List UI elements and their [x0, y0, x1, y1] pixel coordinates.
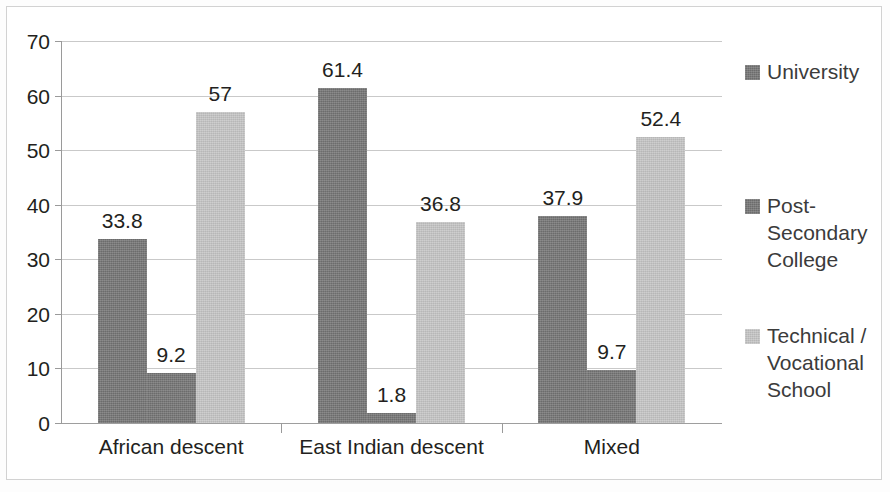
y-axis-tick-label: 50 — [6, 140, 50, 161]
y-axis-tick — [55, 368, 62, 369]
bar-texture — [98, 239, 147, 423]
bar-texture — [196, 112, 245, 423]
legend-swatch-icon — [745, 329, 760, 344]
y-axis-tick-label: 0 — [6, 413, 50, 434]
bar-texture — [147, 373, 196, 423]
gridline — [61, 314, 722, 315]
y-axis-tick-label: 20 — [6, 303, 50, 324]
legend-swatch-icon — [745, 65, 760, 80]
bar-value-label: 52.4 — [640, 108, 681, 129]
bar-texture — [318, 88, 367, 423]
gridline — [61, 205, 722, 206]
gridline — [61, 41, 722, 42]
gridline — [61, 423, 722, 424]
legend-label: Technical /VocationalSchool — [767, 323, 866, 404]
bar-texture — [538, 216, 587, 423]
legend-swatch-texture — [745, 199, 760, 214]
y-axis-tick-label: 30 — [6, 249, 50, 270]
bar-value-label: 9.7 — [597, 341, 626, 362]
gridline — [61, 150, 722, 151]
bar[interactable] — [416, 222, 465, 423]
bar-texture — [587, 370, 636, 423]
bar[interactable] — [147, 373, 196, 423]
x-axis-category-label: African descent — [99, 436, 244, 457]
y-axis-tick — [55, 205, 62, 206]
bar-value-label: 61.4 — [322, 59, 363, 80]
legend-label: Post-SecondaryCollege — [767, 193, 867, 274]
y-axis-tick — [55, 96, 62, 97]
bar-value-label: 57 — [208, 83, 231, 104]
y-axis-tick — [55, 150, 62, 151]
y-axis-tick — [55, 314, 62, 315]
gridline — [61, 259, 722, 260]
bar[interactable] — [98, 239, 147, 423]
bar-value-label: 36.8 — [420, 193, 461, 214]
bar-texture — [416, 222, 465, 423]
legend-item[interactable]: University — [745, 59, 859, 86]
legend-item[interactable]: Technical /VocationalSchool — [745, 323, 866, 404]
bar[interactable] — [196, 112, 245, 423]
legend-label: University — [767, 59, 859, 86]
bar[interactable] — [587, 370, 636, 423]
y-axis-tick — [55, 259, 62, 260]
bar[interactable] — [367, 413, 416, 423]
bar-chart: 010203040506070 UniversityPost-Secondary… — [0, 0, 890, 492]
bar-value-label: 1.8 — [377, 384, 406, 405]
y-axis-tick-label: 70 — [6, 31, 50, 52]
legend-swatch-texture — [745, 329, 760, 344]
bar-value-label: 33.8 — [102, 210, 143, 231]
gridline — [61, 96, 722, 97]
x-axis-category-label: East Indian descent — [299, 436, 483, 457]
legend-swatch-icon — [745, 199, 760, 214]
y-axis-tick-label: 10 — [6, 358, 50, 379]
x-axis-separator — [502, 423, 503, 433]
legend-item[interactable]: Post-SecondaryCollege — [745, 193, 867, 274]
x-axis-separator — [281, 423, 282, 433]
y-axis-tick-label: 40 — [6, 194, 50, 215]
bar[interactable] — [538, 216, 587, 423]
x-axis-category-label: Mixed — [584, 436, 640, 457]
bar-texture — [367, 413, 416, 423]
bar[interactable] — [318, 88, 367, 423]
y-axis-tick — [55, 41, 62, 42]
legend-swatch-texture — [745, 65, 760, 80]
y-axis-tick — [55, 423, 62, 424]
bar[interactable] — [636, 137, 685, 423]
y-axis: 010203040506070 — [0, 0, 50, 492]
bar-texture — [636, 137, 685, 423]
bar-value-label: 9.2 — [157, 344, 186, 365]
bar-value-label: 37.9 — [542, 187, 583, 208]
y-axis-tick-label: 60 — [6, 85, 50, 106]
